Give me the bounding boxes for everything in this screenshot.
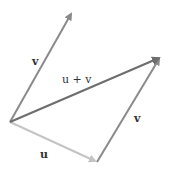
label-v-left: v <box>31 55 39 68</box>
vector-v-right <box>97 59 159 162</box>
label-u: u <box>40 148 48 161</box>
label-v-right: v <box>133 112 141 125</box>
vector-v-left <box>10 14 71 122</box>
vector-u <box>10 122 95 161</box>
vector-diagram: v u + v v u <box>0 0 176 179</box>
label-sum: u + v <box>62 73 92 86</box>
